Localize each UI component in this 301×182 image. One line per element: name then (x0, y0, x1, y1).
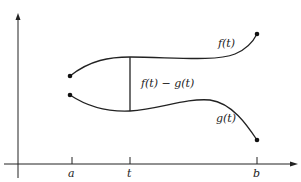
tick-label-a: a (68, 167, 75, 180)
diagram: f(t) f(t) − g(t) g(t) a t b (0, 0, 301, 182)
tick-label-t: t (127, 167, 131, 180)
difference-label: f(t) − g(t) (141, 77, 194, 90)
g-label: g(t) (216, 112, 236, 125)
x-axis-arrow-icon (290, 162, 298, 167)
f-end-point (255, 32, 260, 37)
tick-label-b: b (253, 167, 260, 180)
plot-svg (0, 0, 301, 182)
y-axis-arrow-icon (16, 13, 21, 20)
f-start-point (68, 74, 73, 79)
f-label: f(t) (218, 37, 235, 50)
g-start-point (68, 93, 73, 98)
g-end-point (255, 138, 260, 143)
